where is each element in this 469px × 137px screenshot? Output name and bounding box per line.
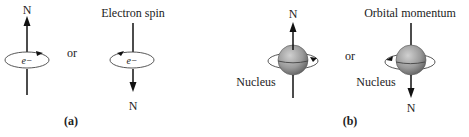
electron-spin-down: Electron spin e− N bbox=[101, 6, 165, 113]
north-label: N bbox=[129, 99, 138, 113]
caption-a: (a) bbox=[64, 114, 78, 128]
spin-diagram-figure: N e− or Electron spin e− N (a) N Nucleus… bbox=[0, 0, 469, 137]
caption-b: (b) bbox=[343, 114, 358, 128]
nucleus-label: Nucleus bbox=[356, 75, 396, 89]
rotation-arrow-icon bbox=[117, 51, 124, 56]
diagram-canvas: N e− or Electron spin e− N (a) N Nucleus… bbox=[0, 0, 469, 137]
arrow-up-icon bbox=[290, 22, 297, 32]
nucleus-spin-up: N Nucleus bbox=[236, 7, 318, 98]
orbital-momentum-title: Orbital momentum bbox=[364, 6, 456, 20]
north-label: N bbox=[23, 3, 32, 17]
electron-spin-up: N e− bbox=[5, 3, 49, 95]
north-label: N bbox=[289, 7, 298, 21]
or-label: or bbox=[67, 46, 77, 60]
electron-label: e− bbox=[126, 55, 137, 66]
nucleus-label: Nucleus bbox=[236, 75, 276, 89]
rotation-arrow-icon bbox=[36, 51, 43, 56]
nucleus-sphere-icon bbox=[396, 45, 426, 75]
north-label: N bbox=[407, 101, 416, 115]
or-label: or bbox=[345, 49, 355, 63]
electron-spin-title: Electron spin bbox=[101, 6, 165, 20]
nucleus-spin-down: Orbital momentum Nucleus N bbox=[356, 6, 456, 115]
arrow-down-icon bbox=[408, 88, 415, 98]
electron-label: e− bbox=[21, 55, 32, 66]
arrow-up-icon bbox=[24, 16, 31, 26]
arrow-down-icon bbox=[130, 82, 137, 92]
